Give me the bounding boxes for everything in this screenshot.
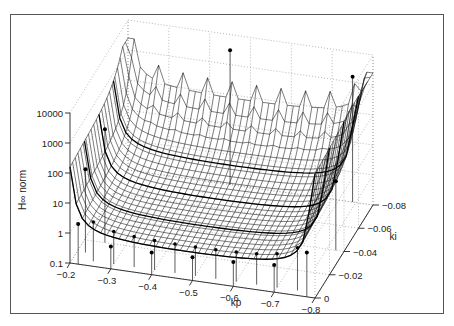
- sample-dot: [103, 127, 107, 131]
- z-tick-label: 0.1: [50, 258, 63, 269]
- z-gridline: [128, 80, 373, 208]
- mesh-highlight: [114, 81, 359, 173]
- mesh-line-kp: [96, 120, 341, 212]
- mesh-line-ki: [291, 104, 349, 256]
- mesh-line-kp: [117, 68, 362, 160]
- sample-dot: [153, 239, 157, 243]
- x-gridline-floor: [274, 199, 332, 292]
- x-tick: [230, 286, 233, 291]
- x-tick-label: −0.5: [179, 287, 198, 298]
- surface-mesh: [70, 38, 373, 259]
- sample-points: [76, 48, 354, 267]
- sample-dot: [191, 255, 195, 259]
- x-tick: [108, 269, 111, 274]
- sample-dot: [112, 230, 116, 234]
- x-tick-label: −0.3: [97, 275, 116, 286]
- y-gridline-floor: [85, 240, 330, 275]
- mesh-line-kp: [73, 162, 318, 254]
- x-tick: [149, 275, 152, 280]
- sample-dot: [351, 75, 355, 79]
- z-tick-label: 1000: [42, 138, 63, 149]
- sample-dot: [83, 167, 87, 171]
- z-axis-title: H∞ norm: [17, 170, 28, 210]
- sample-dot: [275, 252, 279, 256]
- sample-dot: [255, 252, 259, 256]
- surface-plot: 0.1110100100010000−0.2−0.3−0.4−0.5−0.6−0…: [0, 0, 454, 326]
- sample-dot: [228, 48, 232, 52]
- sample-dot: [231, 260, 235, 264]
- z-gridline-left: [70, 20, 128, 113]
- y-tick-label: 0: [324, 293, 329, 304]
- mesh-line-kp: [70, 167, 315, 259]
- mesh-highlight: [85, 141, 330, 233]
- z-tick-label: 10: [52, 198, 63, 209]
- x-tick: [271, 292, 274, 297]
- sample-dot: [92, 220, 96, 224]
- y-tick-label: −0.02: [339, 270, 363, 281]
- x-tick: [67, 263, 70, 268]
- mesh-line-ki: [107, 84, 165, 236]
- sample-dot: [132, 235, 136, 239]
- mesh-line-kp: [123, 46, 368, 138]
- y-tick-label: −0.04: [353, 247, 377, 258]
- mesh-line-kp: [125, 42, 370, 124]
- y-axis-title: ki: [389, 231, 396, 242]
- x-tick: [190, 281, 193, 286]
- z-tick-label: 100: [47, 168, 63, 179]
- sample-dot: [296, 246, 300, 250]
- z-tick-label: 1: [58, 228, 63, 239]
- sample-dot: [234, 250, 238, 254]
- x-tick-label: −0.2: [57, 269, 76, 280]
- y-tick-label: −0.08: [382, 200, 406, 211]
- z-gridline-left: [70, 50, 128, 143]
- sample-dot: [272, 263, 276, 267]
- sample-dot: [173, 242, 177, 246]
- mesh-highlight: [70, 167, 315, 259]
- mesh-line-kp: [91, 129, 336, 221]
- y-tick-label: −0.06: [368, 223, 392, 234]
- z-gridline-left: [70, 140, 128, 233]
- z-tick-label: 10000: [37, 108, 63, 119]
- x-tick: [312, 298, 315, 303]
- sample-dot: [76, 222, 80, 226]
- x-tick-label: −0.4: [138, 281, 157, 292]
- sample-dot: [150, 250, 154, 254]
- sample-dot: [334, 179, 338, 183]
- sample-dot: [194, 245, 198, 249]
- x-tick-label: −0.7: [261, 298, 280, 309]
- sample-dot: [214, 248, 218, 252]
- x-tick-label: −0.8: [302, 304, 321, 315]
- sample-dot: [109, 245, 113, 249]
- sample-dot: [305, 251, 309, 255]
- x-axis-title: kp: [231, 297, 242, 308]
